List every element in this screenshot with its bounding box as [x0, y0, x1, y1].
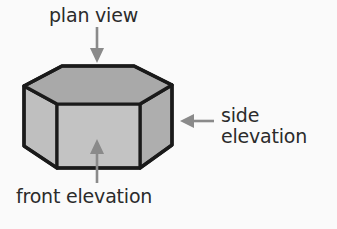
plan-view-arrow — [90, 27, 104, 63]
side-elevation-label: sideelevation — [221, 105, 333, 148]
front-elevation-label: front elevation — [16, 186, 152, 207]
prism-front-face — [57, 104, 140, 168]
side-elevation-label-line1: side — [221, 104, 259, 126]
diagram-figure: plan view sideelevation front elevation — [0, 0, 337, 229]
plan-view-label: plan view — [49, 5, 138, 26]
side-elevation-label-line2: elevation — [221, 125, 307, 147]
prism-top-face — [24, 66, 172, 104]
side-elevation-arrow — [180, 114, 214, 128]
